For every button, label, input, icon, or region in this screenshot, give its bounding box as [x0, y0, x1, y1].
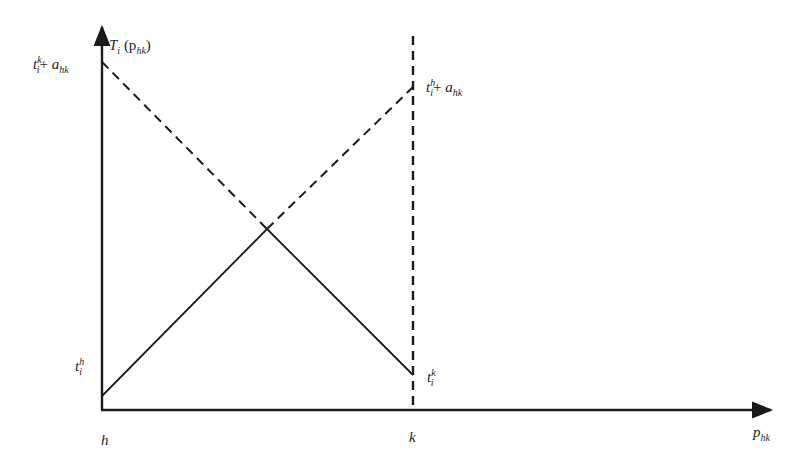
x-tick-h: h [101, 433, 109, 448]
travel-time-diagram: Ti (phk) tki+ ahk thi+ ahk thi tki h k p… [0, 0, 806, 459]
rising-line-solid [102, 229, 267, 396]
diagram-canvas [0, 0, 806, 459]
x-axis-label: phk [753, 425, 770, 440]
x-tick-k: k [409, 430, 416, 445]
label-tih: thi [75, 359, 82, 374]
label-tik-plus-ahk: tki+ ahk [33, 57, 69, 72]
y-axis-label: Ti (phk) [109, 38, 151, 53]
falling-line-solid [267, 229, 413, 375]
label-tik: tki [427, 370, 433, 385]
rising-line-dashed [267, 87, 413, 229]
label-tih-plus-ahk: thi+ ahk [426, 80, 462, 95]
falling-line-dashed [102, 62, 267, 229]
